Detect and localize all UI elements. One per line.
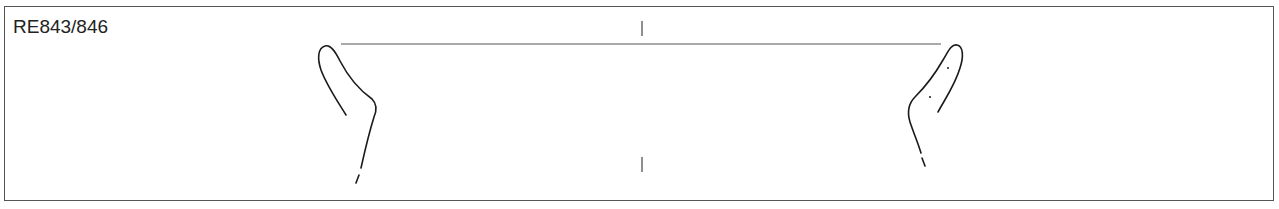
vessel-profile-drawing <box>0 0 1279 209</box>
inclusion-dot <box>947 67 949 69</box>
right-section-profile <box>908 45 962 166</box>
inclusion-dot <box>929 96 931 98</box>
left-section-profile <box>319 46 376 183</box>
